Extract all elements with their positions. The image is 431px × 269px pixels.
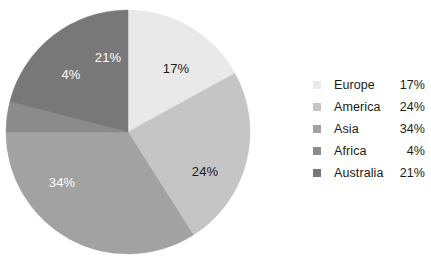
legend-swatch-icon	[313, 81, 321, 89]
pie-plot-area: 17%24%34%4%21%	[0, 0, 290, 269]
pie-slice-label-australia: 21%	[95, 50, 121, 65]
pie-slice-label-africa: 4%	[62, 67, 81, 82]
chart-legend: Europe17%America24%Asia34%Africa4%Austra…	[313, 74, 425, 184]
legend-item-label: America	[334, 100, 395, 114]
legend-item-label: Europe	[334, 78, 395, 92]
legend-item-value: 34%	[395, 122, 425, 136]
legend-item-value: 21%	[395, 166, 425, 180]
legend-swatch-icon	[313, 169, 321, 177]
legend-item-value: 4%	[395, 144, 425, 158]
legend-item-australia[interactable]: Australia21%	[313, 162, 425, 184]
legend-item-label: Asia	[334, 122, 395, 136]
legend-item-america[interactable]: America24%	[313, 96, 425, 118]
legend-swatch-icon	[313, 147, 321, 155]
pie-slice-group	[6, 10, 250, 254]
pie-chart: 17%24%34%4%21% Europe17%America24%Asia34…	[0, 0, 431, 269]
pie-slice-label-america: 24%	[192, 164, 218, 179]
legend-item-value: 17%	[395, 78, 425, 92]
legend-item-value: 24%	[395, 100, 425, 114]
legend-item-label: Africa	[334, 144, 395, 158]
legend-swatch-icon	[313, 103, 321, 111]
legend-swatch-icon	[313, 125, 321, 133]
pie-slice-label-europe: 17%	[163, 61, 189, 76]
legend-item-label: Australia	[334, 166, 395, 180]
pie-svg	[0, 0, 290, 269]
legend-item-europe[interactable]: Europe17%	[313, 74, 425, 96]
legend-item-asia[interactable]: Asia34%	[313, 118, 425, 140]
legend-item-africa[interactable]: Africa4%	[313, 140, 425, 162]
pie-slice-label-asia: 34%	[49, 175, 75, 190]
